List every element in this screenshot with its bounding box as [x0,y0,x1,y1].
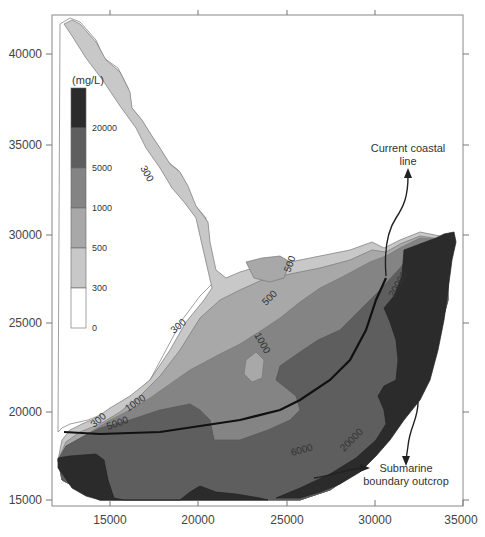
legend-label: 500 [92,243,107,253]
annotation-outcrop-1: Submarine [379,462,432,474]
annotation-coastal-line-2: line [399,155,416,167]
legend-swatch-5000-20000 [71,128,86,168]
legend-label: 1000 [92,203,112,213]
legend-title: (mg/L) [72,74,104,86]
annotation-outcrop-2: boundary outcrop [363,475,449,487]
y-tick-label: 30000 [9,228,43,242]
y-tick-label: 25000 [9,316,43,330]
y-tick-label: 40000 [9,47,43,61]
annotation-coastal-line-1: Current coastal [371,142,446,154]
x-tick-label: 30000 [358,513,392,527]
legend-swatch-1000-5000 [71,168,86,208]
legend-swatch-0-300 [71,288,86,328]
legend-swatch-300-500 [71,248,86,288]
legend-label: 5000 [92,163,112,173]
legend-label: 20000 [92,123,117,133]
legend-swatch-above-20000 [71,88,86,128]
x-tick-label: 15000 [93,513,127,527]
y-tick-label: 15000 [9,493,43,507]
x-tick-label: 20000 [181,513,215,527]
y-tick-label: 20000 [9,405,43,419]
y-tick-label: 35000 [9,138,43,152]
legend-label: 0 [92,323,97,333]
x-tick-label: 25000 [270,513,304,527]
legend-swatch-500-1000 [71,208,86,248]
legend-label: 300 [92,283,107,293]
contour-map-chart: Current coastal line Submarine boundary … [0,0,485,537]
x-tick-label: 35000 [444,513,478,527]
